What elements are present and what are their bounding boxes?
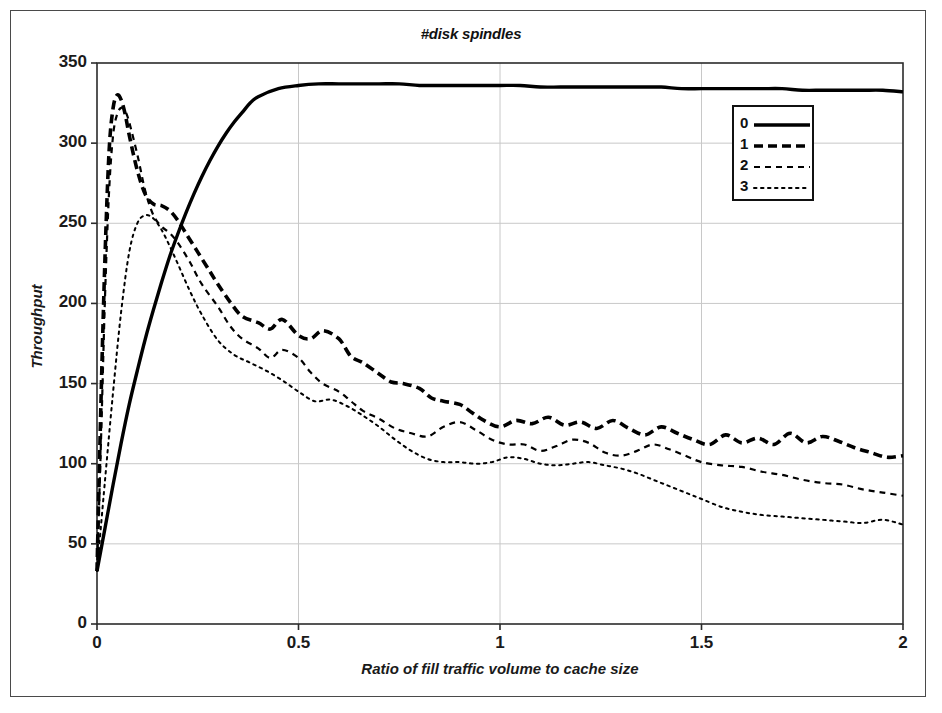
legend-item-label: 0 — [740, 115, 753, 130]
y-tick-label: 100 — [43, 453, 87, 473]
legend-item-label: 1 — [740, 136, 753, 151]
legend-item-3[interactable]: 3 — [740, 175, 812, 196]
legend-item-1[interactable]: 1 — [740, 133, 812, 154]
legend-item-2[interactable]: 2 — [740, 154, 812, 175]
y-tick-label: 300 — [43, 132, 87, 152]
legend-line-sample-3 — [753, 180, 812, 192]
x-tick-label: 0.5 — [279, 633, 319, 653]
x-tick-label: 0 — [77, 633, 117, 653]
legend-item-0[interactable]: 0 — [740, 112, 812, 133]
legend-line-sample-0 — [753, 117, 812, 129]
x-tick-label: 2 — [883, 633, 923, 653]
x-axis-label: Ratio of fill traffic volume to cache si… — [97, 660, 903, 677]
y-tick-label: 50 — [43, 533, 87, 553]
x-tick-label: 1.5 — [682, 633, 722, 653]
x-tick-label: 1 — [480, 633, 520, 653]
y-tick-label: 150 — [43, 373, 87, 393]
y-axis-label: Throughput — [28, 267, 45, 387]
legend-item-label: 2 — [740, 157, 753, 172]
legend-item-label: 3 — [740, 178, 753, 193]
legend-line-sample-2 — [753, 159, 812, 171]
y-tick-label: 200 — [43, 292, 87, 312]
y-tick-label: 250 — [43, 212, 87, 232]
legend-box[interactable]: 0123 — [732, 105, 814, 201]
legend-line-sample-1 — [753, 138, 812, 150]
figure-root: #disk spindles 050100150200250300350 00.… — [0, 0, 942, 713]
y-tick-label: 350 — [43, 52, 87, 72]
y-tick-label: 0 — [43, 613, 87, 633]
